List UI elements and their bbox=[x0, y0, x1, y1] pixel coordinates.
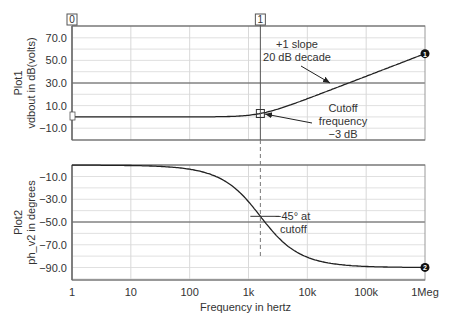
plot-name-label: Plot1 bbox=[12, 70, 24, 95]
y-axis-title: vdbout in dB(volts) bbox=[25, 37, 37, 128]
annotation-phase-line2: cutoff bbox=[280, 223, 308, 235]
y-tick-label: −10.0 bbox=[39, 122, 67, 134]
y-tick-label: 50.0 bbox=[46, 54, 67, 66]
annotation-cutoff-line1: Cutoff bbox=[328, 102, 358, 114]
bode-plot-chart: 70.050.030.010.0−10.0Plot1vdbout in dB(v… bbox=[0, 0, 449, 318]
y-tick-label: −90.0 bbox=[39, 262, 67, 274]
trace-marker-id: 2 bbox=[423, 264, 427, 271]
x-tick-label: 1Meg bbox=[411, 286, 439, 298]
x-tick-label: 100k bbox=[354, 286, 378, 298]
y-axis-title: ph_v2 in degrees bbox=[25, 180, 37, 265]
annotation-slope-line2: 20 dB decade bbox=[263, 51, 331, 63]
cursor-1-label: 1 bbox=[258, 14, 264, 25]
y-tick-label: 70.0 bbox=[46, 32, 67, 44]
x-tick-label: 1 bbox=[69, 286, 75, 298]
y-tick-label: −50.0 bbox=[39, 216, 67, 228]
annotation-cutoff-arrow bbox=[265, 114, 312, 123]
cursor-overlay: 01+1 slope20 dB decadeCutofffrequency−3 … bbox=[67, 14, 368, 258]
x-tick-label: 100 bbox=[180, 286, 198, 298]
x-axis-title: Frequency in hertz bbox=[200, 301, 291, 313]
plot2-phase: −10.0−30.0−50.0−70.0−90.0Plot2ph_v2 in d… bbox=[12, 165, 430, 280]
x-axis: 1101001k10k100k1MegFrequency in hertz bbox=[69, 286, 439, 313]
cursor-0-label: 0 bbox=[69, 14, 75, 25]
y-tick-label: 10.0 bbox=[46, 100, 67, 112]
y-tick-label: −10.0 bbox=[39, 171, 67, 183]
cursor-0-point bbox=[70, 112, 75, 120]
plot-name-label: Plot2 bbox=[12, 210, 24, 235]
annotation-slope-arrow bbox=[301, 66, 330, 83]
annotation-phase-line1: −45° at bbox=[275, 210, 310, 222]
y-tick-label: 30.0 bbox=[46, 77, 67, 89]
x-tick-label: 10 bbox=[125, 286, 137, 298]
x-tick-label: 1k bbox=[243, 286, 255, 298]
trace-marker-id: 1 bbox=[423, 51, 427, 58]
y-tick-label: −70.0 bbox=[39, 239, 67, 251]
y-tick-label: −30.0 bbox=[39, 193, 67, 205]
annotation-cutoff-line3: −3 dB bbox=[328, 128, 357, 140]
annotation-slope-line1: +1 slope bbox=[276, 38, 318, 50]
x-tick-label: 10k bbox=[298, 286, 316, 298]
annotation-cutoff-line2: frequency bbox=[319, 115, 368, 127]
